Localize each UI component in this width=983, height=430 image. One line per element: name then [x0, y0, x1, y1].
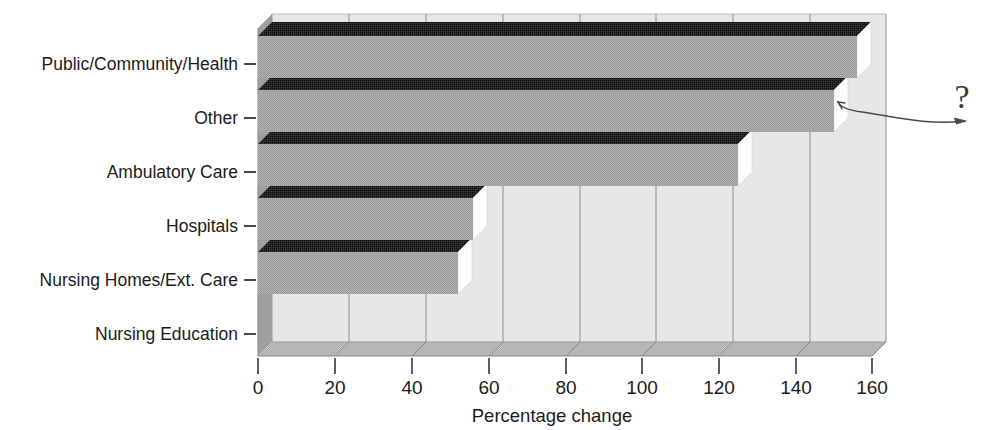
x-axis-tick-label-80: 80 — [555, 377, 576, 398]
x-axis-tick-label-60: 60 — [478, 377, 499, 398]
bar-front-face — [258, 144, 738, 186]
x-axis-tick-label-100: 100 — [626, 377, 658, 398]
y-axis-label-nursing-education: Nursing Education — [95, 324, 238, 344]
y-axis-label-other: Other — [194, 108, 238, 128]
y-axis-label-public-community-health: Public/Community/Health — [42, 54, 238, 74]
bar-top-face — [258, 238, 472, 252]
bar-chart-figure: Public/Community/Health Other Ambulatory… — [0, 0, 983, 430]
x-axis-tick-label-0: 0 — [253, 377, 264, 398]
x-axis-title: Percentage change — [472, 405, 632, 426]
bar-front-face — [258, 90, 834, 132]
bar-nursing-homes-ext-care — [258, 238, 472, 294]
annotation-question-mark: ? — [954, 78, 969, 115]
bar-front-face — [258, 252, 458, 294]
x-axis-tick-label-160: 160 — [856, 377, 888, 398]
bar-front-face — [258, 198, 473, 240]
x-axis-tick-label-140: 140 — [780, 377, 812, 398]
chart-canvas: Public/Community/Health Other Ambulatory… — [0, 0, 983, 430]
bar-front-face — [258, 36, 857, 78]
x-axis-tick-label-20: 20 — [324, 377, 345, 398]
bar-other — [258, 76, 848, 132]
x-axis-tick-label-40: 40 — [401, 377, 422, 398]
bar-top-face — [258, 22, 871, 36]
bar-ambulatory-care — [258, 130, 752, 186]
y-axis-label-ambulatory-care: Ambulatory Care — [107, 162, 238, 182]
y-axis-label-nursing-homes-ext-care: Nursing Homes/Ext. Care — [40, 270, 238, 290]
bar-top-face — [258, 76, 848, 90]
bar-top-face — [258, 130, 752, 144]
y-axis-label-hospitals: Hospitals — [166, 216, 238, 236]
bar-hospitals — [258, 184, 487, 240]
bar-public-community-health — [258, 22, 871, 78]
bar-top-face — [258, 184, 487, 198]
x-axis-tick-label-120: 120 — [703, 377, 735, 398]
plot-floor — [258, 342, 886, 356]
